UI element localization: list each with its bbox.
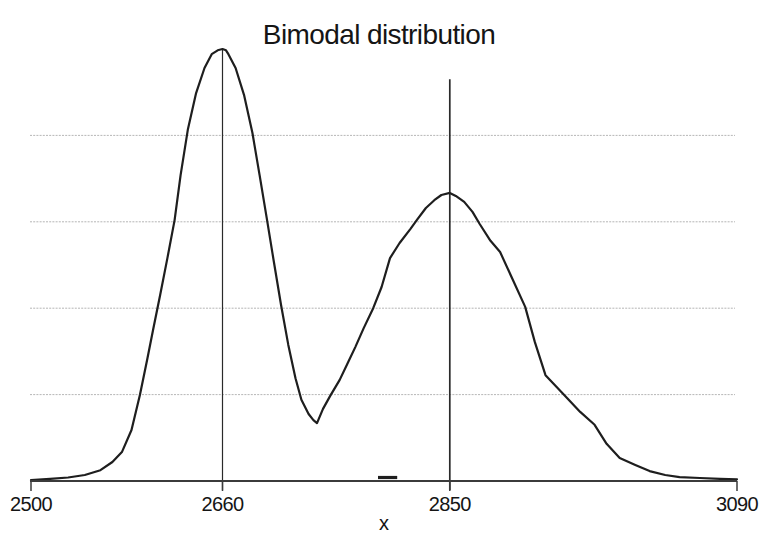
x-tick-label-2850: 2850 bbox=[429, 493, 472, 515]
axis-layer bbox=[30, 481, 737, 491]
curve-layer bbox=[31, 49, 737, 480]
x-axis-label: x bbox=[379, 512, 389, 534]
gridlines-layer bbox=[30, 135, 735, 394]
x-tick-label-2500: 2500 bbox=[10, 493, 53, 515]
marker-lines-layer bbox=[223, 49, 450, 490]
bimodal-distribution-plot: 2500266028503090 Bimodal distribution x bbox=[0, 0, 769, 546]
x-tick-label-3090: 3090 bbox=[716, 493, 759, 515]
chart-title: Bimodal distribution bbox=[263, 19, 495, 50]
chart-page: 2500266028503090 Bimodal distribution x bbox=[0, 0, 769, 546]
x-tick-label-2660: 2660 bbox=[201, 493, 244, 515]
density-curve bbox=[31, 49, 737, 480]
